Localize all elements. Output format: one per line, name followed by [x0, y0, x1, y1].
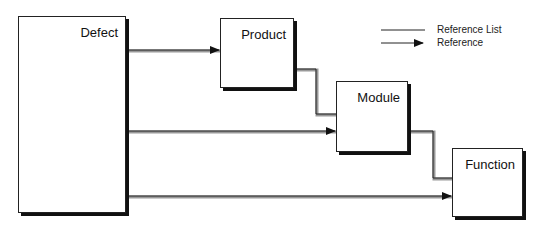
reflist-module-function — [408, 131, 452, 179]
entity-label: Defect — [80, 25, 118, 40]
entity-product[interactable]: Product — [220, 18, 294, 88]
legend-reference-label: Reference — [437, 37, 483, 48]
arrow-defect-module — [126, 131, 336, 132]
entity-label: Function — [465, 157, 515, 172]
entity-function[interactable]: Function — [452, 148, 523, 217]
entity-label: Module — [357, 90, 400, 105]
entity-defect[interactable]: Defect — [18, 16, 126, 213]
arrow-defect-function — [126, 196, 452, 197]
arrow-defect-product — [126, 50, 220, 51]
entity-module[interactable]: Module — [336, 81, 408, 152]
legend-reference-list-label: Reference List — [437, 24, 501, 35]
reflist-product-module — [294, 69, 336, 115]
entity-label: Product — [241, 27, 286, 42]
